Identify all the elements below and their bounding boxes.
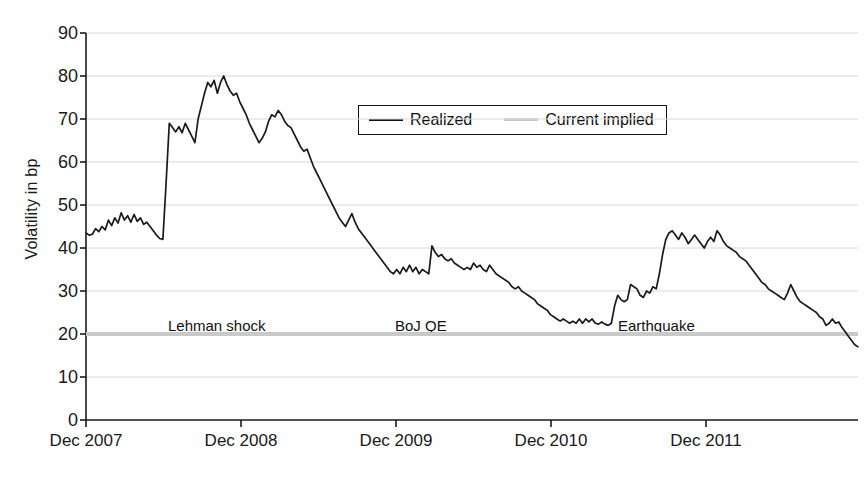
axis-ticks [80, 33, 706, 427]
axis-lines [86, 33, 858, 420]
gridlines [86, 33, 858, 377]
volatility-chart: Volatility in bp 0 10 20 30 40 50 60 70 … [0, 0, 866, 481]
chart-plot-area [0, 0, 866, 481]
realized-volatility-line [86, 76, 858, 347]
